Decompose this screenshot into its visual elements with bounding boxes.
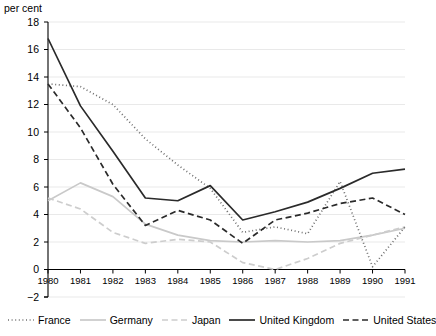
data-series xyxy=(48,39,405,270)
legend-label: Japan xyxy=(192,314,221,326)
y-axis-tick-label: 12 xyxy=(27,98,39,110)
y-axis-tick-label: 10 xyxy=(27,126,39,138)
x-axis-tick-label: 1982 xyxy=(102,275,123,286)
legend-item-germany[interactable]: Germany xyxy=(80,314,153,326)
legend-label: United Kingdom xyxy=(259,314,334,326)
legend-label: Germany xyxy=(110,314,153,326)
y-axis-tick-label: 2 xyxy=(33,236,39,248)
x-axis-tick-label: 1988 xyxy=(297,275,318,286)
legend-item-united-kingdom[interactable]: United Kingdom xyxy=(229,314,334,326)
legend-swatch-dashed-icon xyxy=(343,314,369,326)
x-axis-tick-label: 1981 xyxy=(70,275,91,286)
y-axis-tick-label: 0 xyxy=(33,263,39,275)
y-axis-tick-label: 4 xyxy=(33,208,39,220)
legend-item-france[interactable]: France xyxy=(8,314,71,326)
legend-item-united-states[interactable]: United States xyxy=(343,314,436,326)
y-axis-tick-label: 16 xyxy=(27,43,39,55)
y-axis-tick-label: −2 xyxy=(27,291,39,303)
y-axis-tick-label: 14 xyxy=(27,71,39,83)
legend-swatch-solid-icon xyxy=(229,314,255,326)
x-axis-tick-label: 1989 xyxy=(330,275,351,286)
legend-label: United States xyxy=(373,314,436,326)
x-axis-ticks: 1980198119821983198419851986198719881989… xyxy=(37,270,415,287)
x-axis-tick-label: 1990 xyxy=(362,275,383,286)
legend-swatch-dashed-icon xyxy=(162,314,188,326)
x-axis-tick-label: 1984 xyxy=(167,275,188,286)
y-axis-tick-label: 18 xyxy=(27,16,39,28)
x-axis-tick-label: 1991 xyxy=(394,275,415,286)
gridlines xyxy=(48,22,405,297)
x-axis-tick-label: 1983 xyxy=(135,275,156,286)
y-axis-tick-label: 8 xyxy=(33,153,39,165)
x-axis-tick-label: 1985 xyxy=(200,275,221,286)
series-line-japan xyxy=(48,198,405,270)
series-line-united-states xyxy=(48,84,405,244)
chart-legend: FranceGermanyJapanUnited KingdomUnited S… xyxy=(0,308,420,332)
y-axis-ticks: 181614121086420−2 xyxy=(27,16,48,303)
x-axis-tick-label: 1986 xyxy=(232,275,253,286)
legend-item-japan[interactable]: Japan xyxy=(162,314,221,326)
x-axis-tick-label: 1987 xyxy=(265,275,286,286)
legend-label: France xyxy=(38,314,71,326)
series-line-united-kingdom xyxy=(48,39,405,221)
legend-swatch-dotted-icon xyxy=(8,314,34,326)
legend-swatch-solid-icon xyxy=(80,314,106,326)
y-axis-tick-label: 6 xyxy=(33,181,39,193)
series-line-germany xyxy=(48,183,405,242)
